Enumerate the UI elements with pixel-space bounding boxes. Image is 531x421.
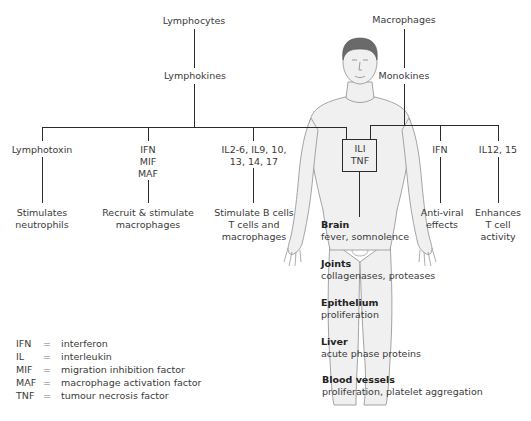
- legend-row: IL = interleukin: [16, 350, 201, 363]
- connector-macrophages-stem: [404, 29, 405, 68]
- connector-branch-1-top: [42, 127, 43, 141]
- legend-row: IFN = interferon: [16, 337, 201, 350]
- monokines-label: Monokines: [379, 70, 430, 82]
- legend-row: MAF = macrophage activation factor: [16, 376, 201, 389]
- branch-5-effect: Anti-viral effects: [421, 207, 464, 231]
- systemic-effect-liver: Liver acute phase proteins: [321, 336, 421, 360]
- lymphocytes-label: Lymphocytes: [163, 15, 226, 27]
- lymphokines-label: Lymphokines: [164, 70, 226, 82]
- connector-branch-1-bottom: [42, 157, 43, 203]
- connector-monokines-stem: [404, 84, 405, 125]
- connector-box-stem: [359, 171, 360, 217]
- connector-branch-5-bottom: [440, 157, 441, 203]
- connector-branch-2-top: [148, 127, 149, 141]
- branch-2-mediators: IFN MIF MAF: [138, 144, 158, 180]
- branch-6-effect: Enhances T cell activity: [475, 207, 521, 243]
- connector-right-bar: [370, 125, 499, 126]
- branch-3-effect: Stimulate B cells T cells and macrophage…: [214, 207, 294, 243]
- systemic-effect-epithelium: Epithelium proliferation: [321, 297, 379, 321]
- connector-box-right: [370, 125, 371, 140]
- branch-3-mediators: IL2-6, IL9, 10, 13, 14, 17: [222, 144, 287, 168]
- legend-row: MIF = migration inhibition factor: [16, 363, 201, 376]
- legend-row: TNF = tumour necrosis factor: [16, 389, 201, 402]
- lymphotoxin-label: Lymphotoxin: [12, 144, 73, 156]
- connector-branch-3-top: [253, 127, 254, 141]
- ili-tnf-label: ILI TNF: [351, 143, 369, 167]
- connector-lymphokines-stem: [194, 84, 195, 127]
- systemic-effect-joints: Joints collagenases, proteases: [321, 258, 435, 282]
- macrophages-label: Macrophages: [372, 14, 435, 26]
- connector-branch-2-bottom: [148, 180, 149, 203]
- systemic-effect-blood-vessels: Blood vessels proliferation, platelet ag…: [322, 374, 483, 398]
- systemic-effect-brain: Brain fever, somnolence: [321, 219, 409, 243]
- branch-2-effect: Recruit & stimulate macrophages: [102, 207, 194, 231]
- connector-left-bar: [42, 127, 347, 128]
- connector-branch-5-top: [440, 125, 441, 141]
- connector-branch-3-bottom: [253, 168, 254, 203]
- branch-1-effect: Stimulates neutrophils: [15, 207, 68, 231]
- abbreviation-legend: IFN = interferon IL = interleukin MIF = …: [16, 337, 201, 402]
- connector-branch-6-top: [498, 125, 499, 141]
- connector-branch-6-bottom: [498, 157, 499, 203]
- connector-lymphocytes-stem: [194, 29, 195, 68]
- ifn-label: IFN: [432, 144, 447, 156]
- il12-15-label: IL12, 15: [479, 144, 517, 156]
